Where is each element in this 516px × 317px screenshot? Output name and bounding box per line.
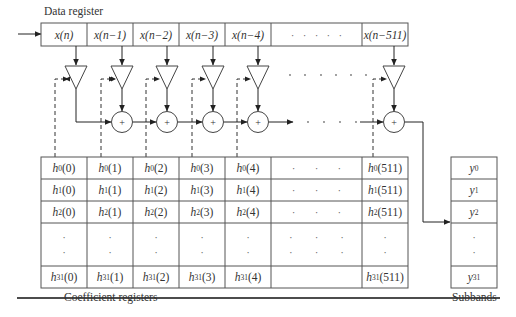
subband-vertical-ellipsis: ·· [451,223,497,266]
coefficient-cell: h31(4) [225,266,271,288]
coefficient-vertical-ellipsis: ·· [87,223,133,266]
data-cell-x-n: x(n) [41,23,87,46]
multiplier-icon [156,66,178,89]
coefficient-vertical-ellipsis: ·· [225,223,271,266]
coefficient-cell: h2(0) [41,201,87,223]
coefficient-cell: h0(3) [179,157,225,179]
coefficient-vertical-ellipsis: ·· [133,223,179,266]
multiplier-icon [383,66,405,89]
adder-plus: + [112,112,132,132]
coefficient-cell: h0(4) [225,157,271,179]
coefficient-registers-caption: Coefficient registers [64,291,157,303]
coefficient-row-ellipsis: · · · [271,157,362,179]
coefficient-cell: h0(0) [41,157,87,179]
coefficient-cell: h1(1) [87,179,133,201]
coefficient-cell: h2(3) [179,201,225,223]
coefficient-cell: h0(1) [87,157,133,179]
coefficient-cell-511: h0(511) [362,157,408,179]
coefficient-cell: h2(4) [225,201,271,223]
output-arrow [405,122,450,222]
coefficient-cell: h2(1) [87,201,133,223]
coefficient-cell: h1(4) [225,179,271,201]
subbands-caption: Subbands [452,291,497,303]
subband-cell: y2 [451,201,497,223]
subband-cell: y1 [451,179,497,201]
coefficient-cell: h1(2) [133,179,179,201]
coefficient-cell: h31(0) [41,266,87,288]
coefficient-cell-511: h1(511) [362,179,408,201]
coefficient-cell: h31(3) [179,266,225,288]
coefficient-row-ellipsis: · · · [271,201,362,223]
coefficient-cell: h1(0) [41,179,87,201]
adder-plus: + [248,112,268,132]
data-cell-x-n-4: x(n−4) [225,23,271,46]
data-cell-x-n-3: x(n−3) [179,23,225,46]
adder-plus: + [203,112,223,132]
coefficient-cell: h0(2) [133,157,179,179]
coefficient-cell: h1(3) [179,179,225,201]
coefficient-cell: h31(1) [87,266,133,288]
coefficient-vertical-ellipsis: ·· [179,223,225,266]
data-cell-x-n-1: x(n−1) [87,23,133,46]
data-cell-x-n-511: x(n−511) [362,23,408,46]
coefficient-vertical-ellipsis: ·· [362,223,408,266]
coefficient-row-ellipsis: · · · [271,179,362,201]
adder-plus: + [157,112,177,132]
coefficient-cell: h31(2) [133,266,179,288]
data-cell-ellipsis: · · · · · [271,23,362,46]
coefficient-cell-511: h31(511) [362,266,408,288]
adder-plus: + [384,112,404,132]
multiplier-triangles [65,66,405,89]
data-cell-x-n-2: x(n−2) [133,23,179,46]
coefficient-grid-ellipsis: ······ [271,223,362,266]
register-to-multiplier-arrows [76,46,394,65]
subband-cell: y31 [451,266,497,288]
ellipsis-dots [289,74,367,123]
subband-cell: y0 [451,157,497,179]
multiplier-icon [111,66,133,89]
multiplier-icon [202,66,224,89]
coefficient-vertical-ellipsis: ·· [41,223,87,266]
coefficient-cell-511: h2(511) [362,201,408,223]
multiplier-icon [247,66,269,89]
coefficient-cell: h2(2) [133,201,179,223]
data-register-title: Data register [44,5,103,17]
